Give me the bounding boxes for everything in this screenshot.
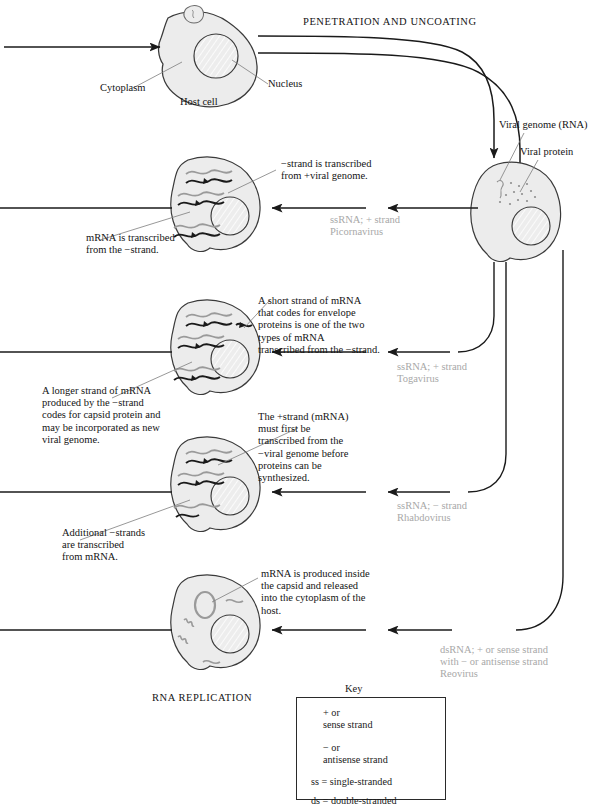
key-abbrev-ds: ds = double-stranded — [297, 795, 445, 806]
key-entry-antisense-label: − or antisense strand — [323, 742, 388, 765]
branch-to-togavirus — [458, 262, 494, 352]
host-cell-group — [133, 6, 268, 107]
penetration-label: PENETRATION AND UNCOATING — [303, 16, 477, 28]
cell-nucleus — [211, 615, 249, 653]
key-entry-sense: + or sense strand — [297, 707, 445, 730]
annotation-rhabdovirus-2: Additional −strands are transcribed from… — [62, 527, 145, 564]
branch-to-rhabdovirus — [468, 262, 506, 492]
viral-genome-label: Viral genome (RNA) — [499, 119, 588, 131]
infected-cell-body — [471, 162, 561, 261]
key-box: + or sense strand − or antisense strand … — [296, 697, 446, 800]
key-abbrev-ss: ss = single-stranded — [297, 776, 445, 787]
virus-particle — [184, 6, 204, 23]
host-cell-label: Host cell — [180, 96, 218, 108]
annotation-reovirus-1: mRNA is produced inside the capsid and r… — [261, 568, 370, 617]
virus-label-picornavirus: ssRNA; + strand Picornavirus — [330, 214, 400, 238]
virus-label-togavirus: ssRNA; + strand Togavirus — [397, 361, 467, 385]
virus-label-reovirus: dsRNA; + or sense strand with − or antis… — [440, 644, 548, 681]
diagram-canvas: PENETRATION AND UNCOATING Cytoplasm Nucl… — [0, 0, 598, 806]
branch-to-reovirus — [516, 250, 563, 630]
key-entry-antisense: − or antisense strand — [297, 742, 445, 765]
annotation-picornavirus-2: mRNA is transcribed from the −strand. — [86, 232, 175, 256]
cytoplasm-label: Cytoplasm — [100, 82, 146, 94]
virus-label-rhabdovirus: ssRNA; − strand Rhabdovirus — [397, 500, 467, 524]
infected-cell-nucleus — [512, 207, 550, 245]
rna-replication-label: RNA REPLICATION — [152, 692, 252, 704]
key-entry-sense-label: + or sense strand — [323, 707, 373, 730]
row-togavirus-cell — [112, 300, 270, 398]
annotation-togavirus-2: A longer strand of mRNA produced by the … — [42, 385, 160, 446]
nucleus-label: Nucleus — [268, 78, 302, 90]
row-reovirus-cell — [171, 575, 260, 670]
annotation-picornavirus-1: −strand is transcribed from +viral genom… — [281, 158, 371, 182]
annotation-rhabdovirus-1: The +strand (mRNA) must first be transcr… — [258, 411, 349, 484]
host-cell-nucleus — [194, 34, 238, 78]
key-title: Key — [345, 683, 363, 694]
viral-protein-label: Viral protein — [520, 146, 573, 158]
annotation-togavirus-1: A short strand of mRNA that codes for en… — [258, 295, 380, 356]
